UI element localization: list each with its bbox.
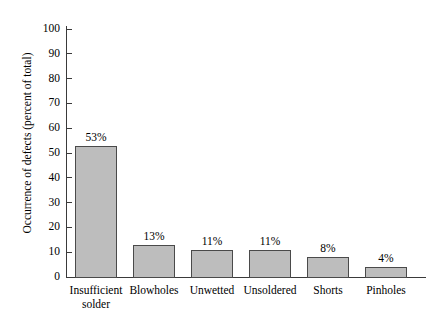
y-axis-tick-label: 80 — [20, 73, 60, 85]
y-axis-tick — [66, 252, 72, 253]
y-axis-tick — [66, 177, 72, 178]
y-axis-tick-label-text: 10 — [26, 246, 60, 258]
y-axis-tick-label-text: 60 — [26, 122, 60, 134]
y-axis-tick-label: 20 — [20, 221, 60, 233]
y-axis-tick-label: 70 — [20, 97, 60, 109]
y-axis-tick-label-text: 80 — [26, 73, 60, 85]
y-axis-tick-label: 10 — [20, 246, 60, 258]
y-axis-tick — [66, 128, 72, 129]
y-axis-tick — [66, 103, 72, 104]
bar — [133, 245, 175, 278]
y-axis-tick-label: 100 — [20, 23, 60, 35]
x-axis-category-label-line: solder — [62, 297, 130, 311]
y-axis-tick-label-text: 40 — [26, 172, 60, 184]
bar-chart: Occurrence of defects (percent of total)… — [0, 0, 439, 326]
y-axis-tick — [66, 277, 72, 278]
y-axis-tick — [66, 53, 72, 54]
x-axis-category-label-line: Pinholes — [352, 283, 420, 297]
y-axis-tick-label-text: 20 — [26, 221, 60, 233]
y-axis-tick-label: 30 — [20, 197, 60, 209]
y-axis-tick — [66, 202, 72, 203]
y-axis-tick-label: 40 — [20, 172, 60, 184]
bar-value-label: 4% — [351, 252, 421, 264]
bar — [365, 267, 407, 278]
y-axis-tick-label-text: 90 — [26, 48, 60, 60]
y-axis-tick-label: 0 — [20, 271, 60, 283]
y-axis-tick — [66, 227, 72, 228]
x-axis-category-label: Pinholes — [352, 283, 420, 297]
y-axis-tick — [66, 29, 72, 30]
y-axis-title: Occurrence of defects (percent of total) — [18, 3, 36, 283]
bar-value-label: 53% — [61, 131, 131, 143]
y-axis-tick-label: 90 — [20, 48, 60, 60]
y-axis-tick — [66, 153, 72, 154]
y-axis-tick-label-text: 50 — [26, 147, 60, 159]
y-axis-tick-label: 50 — [20, 147, 60, 159]
bar — [75, 146, 117, 278]
bar — [307, 257, 349, 278]
y-axis-tick — [66, 78, 72, 79]
bar — [249, 250, 291, 278]
bar — [191, 250, 233, 278]
y-axis-tick-label: 60 — [20, 122, 60, 134]
y-axis-tick-label-text: 30 — [26, 197, 60, 209]
y-axis-tick-label-text: 70 — [26, 97, 60, 109]
y-axis-tick-label-text: 0 — [26, 271, 60, 283]
y-axis-tick-label-text: 100 — [26, 23, 60, 35]
